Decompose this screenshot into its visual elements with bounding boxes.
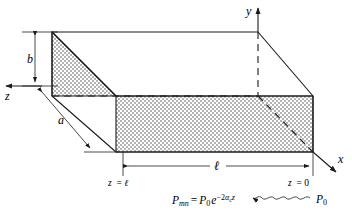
station-label-z-equals-ell: z = ℓ (107, 178, 128, 188)
z-axis-label: z (4, 89, 10, 103)
equation-equals: = (191, 194, 198, 206)
equation-lhs-subscript: mn (179, 199, 189, 208)
incident-power-symbol: P (315, 193, 323, 205)
wavy-arrow-path (253, 197, 310, 200)
station-right-symbol: z (287, 178, 292, 188)
diagram-canvas: y x z b a (0, 0, 352, 213)
z-axis: z (4, 86, 42, 103)
x-axis: x (313, 152, 344, 172)
station-labels: z = ℓ z = 0 (107, 178, 309, 188)
y-axis: y (245, 4, 258, 32)
dimension-ell: ℓ (123, 152, 313, 176)
station-right-equals: = (294, 178, 304, 188)
y-axis-label: y (245, 4, 252, 18)
x-axis-label: x (337, 152, 344, 166)
edge-right-upper-oblique (258, 32, 313, 96)
dimension-a-label: a (58, 113, 64, 127)
equation-rhs-subscript: 0 (206, 199, 210, 208)
station-left-value: ℓ (124, 178, 128, 188)
attenuation-equation: Pmn=P0e−2αcz (171, 193, 236, 208)
incident-power-subscript: 0 (323, 198, 327, 207)
station-right-value: 0 (304, 178, 309, 188)
equation-rhs-symbol: P (198, 194, 206, 206)
station-left-symbol: z (107, 178, 112, 188)
incident-wave-arrow: P0 (253, 193, 327, 207)
bottom-slab-shaded-region (116, 96, 313, 152)
x-axis-line (313, 152, 336, 172)
dimension-a: a (42, 92, 118, 152)
station-left-equals: = (114, 178, 124, 188)
waveguide-figure: y x z b a (0, 0, 352, 213)
waveguide-bottom-slab (116, 96, 313, 152)
station-label-z-equals-zero: z = 0 (287, 178, 309, 188)
dimension-ell-label: ℓ (214, 158, 220, 173)
incident-power-label: P0 (315, 193, 327, 207)
equation-text: Pmn=P0e−2αcz (171, 193, 236, 208)
equation-exp-variable: z (231, 193, 236, 202)
equation-lhs-symbol: P (171, 194, 179, 206)
dim-a-arrow (42, 92, 90, 148)
dimension-b-label: b (27, 52, 33, 66)
